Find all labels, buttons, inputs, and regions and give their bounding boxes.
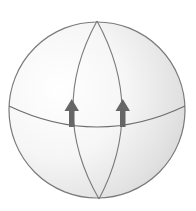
sphere-body xyxy=(9,22,185,198)
sphere-diagram xyxy=(0,0,196,211)
sphere-svg xyxy=(0,0,196,211)
